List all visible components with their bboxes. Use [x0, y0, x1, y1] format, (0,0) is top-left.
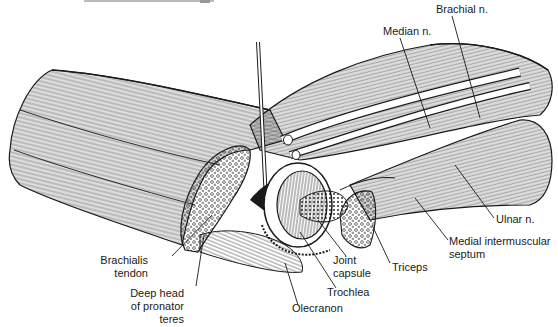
- label-line: capsule: [333, 267, 371, 280]
- label-deep-head-pronator-teres: Deep head of pronator teres: [112, 287, 184, 326]
- label-line: Brachialis: [92, 254, 148, 267]
- label-medial-intermuscular-septum: Medial intermuscular septum: [449, 235, 550, 261]
- anatomy-figure: Brachial n. Median n. Ulnar n. Medial in…: [0, 0, 558, 327]
- label-brachialis-tendon: Brachialis tendon: [92, 254, 148, 280]
- label-olecranon: Olecranon: [292, 302, 343, 315]
- label-brachial-nerve: Brachial n.: [436, 3, 488, 16]
- label-median-nerve: Median n.: [383, 25, 431, 38]
- label-line: Deep head: [112, 287, 184, 300]
- label-line: septum: [449, 248, 550, 261]
- label-triceps: Triceps: [392, 261, 428, 274]
- label-line: of pronator: [112, 300, 184, 313]
- label-joint-capsule: Joint capsule: [333, 254, 371, 280]
- label-line: teres: [112, 313, 184, 326]
- label-trochlea: Trochlea: [327, 286, 369, 299]
- label-ulnar-nerve: Ulnar n.: [496, 213, 535, 226]
- label-line: Medial intermuscular: [449, 235, 550, 248]
- label-line: tendon: [92, 267, 148, 280]
- label-line: Joint: [333, 254, 371, 267]
- elbow-illustration: [0, 0, 558, 327]
